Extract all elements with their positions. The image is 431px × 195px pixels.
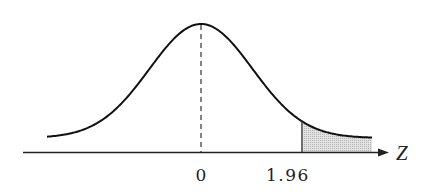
normal-distribution-chart: Z 0 1.96 xyxy=(0,0,431,195)
axis-label-z: Z xyxy=(396,141,408,165)
axis-arrowhead-icon xyxy=(378,149,389,157)
density-curve xyxy=(47,24,372,138)
tick-label-critical: 1.96 xyxy=(266,165,310,185)
tick-label-zero: 0 xyxy=(196,165,207,185)
